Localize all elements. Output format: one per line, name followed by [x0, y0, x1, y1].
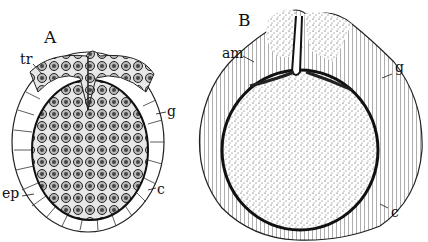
panel-a-label: A	[44, 29, 56, 46]
label-am-amnion: am	[222, 46, 244, 60]
label-tr-trophoblast: tr	[20, 52, 32, 66]
illustration-drawing	[0, 0, 428, 242]
panel-a-drawing	[12, 51, 166, 232]
illustration-figure: A tr g ep c B am g c	[0, 0, 428, 242]
label-g-panel-b: g	[395, 60, 404, 74]
label-g-panel-a: g	[167, 104, 176, 118]
label-c-panel-b: c	[391, 205, 399, 219]
panel-b-label: B	[238, 12, 251, 29]
panel-b-drawing	[199, 9, 422, 240]
label-c-panel-a: c	[157, 182, 165, 196]
label-ep-epithelium: ep	[2, 186, 19, 200]
